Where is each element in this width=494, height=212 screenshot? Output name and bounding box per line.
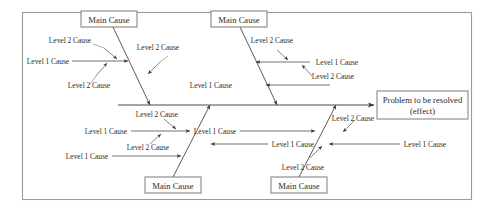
label-tr-level1-b: Level 1 Cause bbox=[190, 81, 233, 90]
fishbone-diagram-canvas: Main Cause Main Cause Main Cause Main Ca… bbox=[0, 0, 494, 212]
label-tr-level2-a: Level 2 Cause bbox=[251, 36, 294, 45]
label-br-level1-a: Level 1 Cause bbox=[194, 127, 237, 136]
twig-bl-level2-a bbox=[164, 119, 176, 129]
label-bl-level1-a: Level 1 Cause bbox=[85, 127, 128, 136]
twig-tr-level2-b bbox=[302, 65, 312, 76]
label-br-level1-d: Level 1 Cause bbox=[404, 140, 447, 149]
main-cause-label-top-left: Main Cause bbox=[88, 15, 129, 25]
label-tl-level2-a: Level 2 Cause bbox=[49, 36, 92, 45]
main-cause-label-top-right: Main Cause bbox=[218, 15, 259, 25]
twig-tl-level2-b bbox=[96, 63, 107, 76]
fishbone-diagram-svg: Main Cause Main Cause Main Cause Main Ca… bbox=[0, 0, 494, 212]
label-tr-level1-a: Level 1 Cause bbox=[316, 58, 359, 67]
label-bl-level1-b: Level 1 Cause bbox=[66, 152, 109, 161]
label-br-level2-a: Level 2 Cause bbox=[282, 163, 325, 172]
main-cause-label-bottom-left: Main Cause bbox=[152, 181, 193, 191]
twig-tl-level2-a bbox=[104, 48, 117, 59]
label-bl-level2-a: Level 2 Cause bbox=[136, 110, 179, 119]
label-bl-level2-b: Level 2 Cause bbox=[127, 143, 170, 152]
label-tl-level1-a: Level 1 Cause bbox=[27, 57, 70, 66]
twig-tl-level2-c bbox=[148, 62, 160, 74]
leader-tl-c bbox=[160, 56, 168, 62]
twig-tr-level2-a bbox=[277, 50, 288, 60]
label-br-level1-c: Level 1 Cause bbox=[272, 140, 315, 149]
label-br-level2-b: Level 2 Cause bbox=[332, 114, 375, 123]
label-tl-level2-b: Level 2 Cause bbox=[68, 81, 111, 90]
main-bone-bottom-left bbox=[173, 105, 210, 177]
main-cause-label-bottom-right: Main Cause bbox=[278, 181, 319, 191]
leader-tl-a bbox=[93, 44, 104, 48]
label-tr-level2-b: Level 2 Cause bbox=[312, 72, 355, 81]
effect-label-line1: Problem to be resolved bbox=[383, 95, 463, 105]
label-tl-level2-c: Level 2 Cause bbox=[137, 43, 180, 52]
effect-label-line2: (effect) bbox=[410, 106, 435, 116]
main-bone-top-left bbox=[113, 27, 150, 105]
